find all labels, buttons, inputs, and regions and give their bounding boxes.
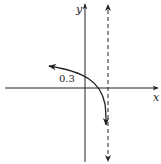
function-curve [49, 66, 106, 125]
y-axis-label: y [75, 3, 83, 16]
graph-figure: y x 0.3 [0, 0, 161, 164]
asymptote-top-arrow-icon [105, 4, 111, 11]
y-intercept-label: 0.3 [59, 73, 75, 84]
asymptote-bottom-arrow-icon [105, 155, 111, 162]
x-axis-label: x [153, 91, 160, 104]
